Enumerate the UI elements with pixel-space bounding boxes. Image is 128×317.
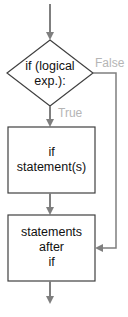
if-box-line-1: if (8, 145, 95, 160)
false-path (93, 73, 116, 248)
decision-line-1: if (logical (12, 59, 88, 74)
if-box-text: if statement(s) (8, 145, 95, 175)
if-box-line-2: statement(s) (8, 160, 95, 175)
after-box-line-3: if (8, 255, 95, 270)
after-box-text: statements after if (8, 225, 95, 270)
false-label: False (95, 56, 124, 70)
true-label: True (58, 106, 82, 120)
decision-text: if (logical exp.): (12, 59, 88, 89)
after-box-line-1: statements (8, 225, 95, 240)
decision-line-2: exp.): (12, 74, 88, 89)
after-box-line-2: after (8, 240, 95, 255)
